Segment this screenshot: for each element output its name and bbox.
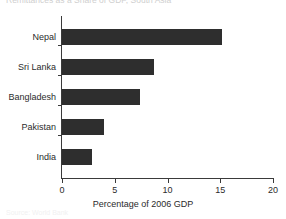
bar-nepal bbox=[62, 29, 222, 45]
x-axis-tick-15 bbox=[220, 178, 221, 183]
bar-bangladesh bbox=[62, 89, 140, 105]
bar-chart-figure: Remittances as a Share of GDP, South Asi… bbox=[0, 0, 286, 219]
bar-sri-lanka bbox=[62, 59, 154, 75]
category-label-india: India bbox=[36, 149, 56, 165]
category-label-bangladesh: Bangladesh bbox=[8, 89, 56, 105]
x-axis-tick-0 bbox=[62, 178, 63, 183]
y-axis-tick bbox=[58, 45, 62, 46]
bar-row: Nepal bbox=[62, 22, 273, 52]
chart-caption-clipped: Source: World Bank bbox=[6, 210, 156, 219]
bar-row: India bbox=[62, 142, 273, 172]
x-axis-tick-10 bbox=[168, 178, 169, 183]
bar-row: Pakistan bbox=[62, 112, 273, 142]
bar-pakistan bbox=[62, 119, 104, 135]
x-axis-tick-label-15: 15 bbox=[215, 185, 225, 195]
x-axis-title: Percentage of 2006 GDP bbox=[0, 199, 286, 209]
bar-row: Bangladesh bbox=[62, 82, 273, 112]
y-axis-tick bbox=[58, 105, 62, 106]
category-label-sri-lanka: Sri Lanka bbox=[18, 59, 56, 75]
x-axis-tick-label-0: 0 bbox=[59, 185, 64, 195]
plot-area: NepalSri LankaBangladeshPakistanIndia bbox=[62, 16, 273, 178]
category-label-pakistan: Pakistan bbox=[21, 119, 56, 135]
x-axis-tick-20 bbox=[273, 178, 274, 183]
chart-title-clipped: Remittances as a Share of GDP, South Asi… bbox=[6, 0, 246, 4]
bar-row: Sri Lanka bbox=[62, 52, 273, 82]
chart-caption-text: Source: World Bank bbox=[6, 210, 68, 216]
x-axis-tick-label-20: 20 bbox=[268, 185, 278, 195]
x-axis-tick-label-5: 5 bbox=[112, 185, 117, 195]
y-axis-tick bbox=[58, 135, 62, 136]
x-axis-tick-label-10: 10 bbox=[162, 185, 172, 195]
x-axis-tick-5 bbox=[115, 178, 116, 183]
chart-title-text: Remittances as a Share of GDP, South Asi… bbox=[6, 0, 171, 4]
y-axis-tick bbox=[58, 75, 62, 76]
bar-india bbox=[62, 149, 92, 165]
category-label-nepal: Nepal bbox=[32, 29, 56, 45]
